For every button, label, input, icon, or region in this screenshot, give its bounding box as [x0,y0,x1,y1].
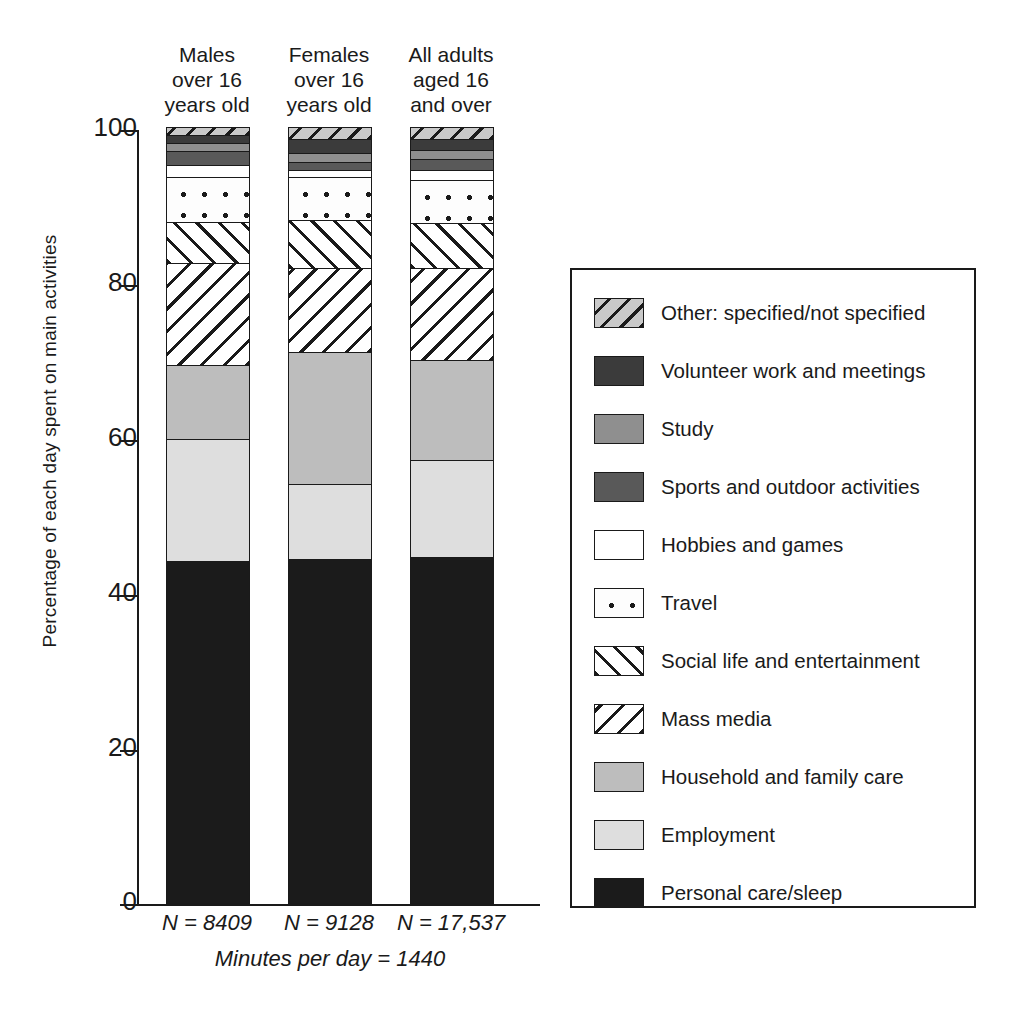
legend-item: Personal care/sleep [572,864,974,922]
segment-volunteer-work [167,136,249,145]
segment-other [411,128,493,140]
segment-social-life-entertainment [411,224,493,269]
segment-study [167,144,249,152]
legend-item-label: Hobbies and games [661,534,843,556]
back-hatch-gray-swatch [594,298,644,328]
legend-item-label: Mass media [661,708,772,730]
segment-personal-care-sleep [411,558,493,903]
segment-employment [289,485,371,560]
medium-dark-gray-swatch [594,472,644,502]
legend-item-label: Volunteer work and meetings [661,360,925,382]
legend-item: Sports and outdoor activities [572,458,974,516]
column-header-line: aged 16 [376,67,526,92]
legend-item: Mass media [572,690,974,748]
segment-personal-care-sleep [289,560,371,903]
segment-travel [167,178,249,222]
segment-travel [411,181,493,224]
column-header-line: All adults [376,42,526,67]
segment-social-life-entertainment [289,221,371,269]
x-axis-line [120,904,540,906]
y-axis-line [137,130,139,905]
segment-hobbies-games [167,166,249,178]
segment-sports-outdoor [411,160,493,171]
chart-legend: Other: specified/not specifiedVolunteer … [570,268,976,908]
very-light-gray-swatch [594,820,644,850]
segment-volunteer-work [411,140,493,152]
legend-item-label: Other: specified/not specified [661,302,925,324]
segment-sports-outdoor [289,163,371,171]
segment-mass-media [411,269,493,360]
white-swatch [594,530,644,560]
y-tick-label: 80 [73,269,137,295]
dark-gray-swatch [594,356,644,386]
segment-hobbies-games [289,171,371,179]
y-tick-label: 60 [73,424,137,450]
segment-study [289,154,371,163]
segment-sports-outdoor [167,152,249,166]
legend-item-label: Social life and entertainment [661,650,920,672]
legend-item: Household and family care [572,748,974,806]
legend-item: Travel [572,574,974,632]
segment-household-family-care [411,361,493,462]
legend-item-label: Study [661,418,713,440]
segment-other [167,128,249,136]
legend-item: Volunteer work and meetings [572,342,974,400]
light-gray-swatch [594,762,644,792]
bar-males [166,127,250,904]
segment-household-family-care [289,353,371,485]
y-tick-label: 100 [73,114,137,140]
legend-item: Study [572,400,974,458]
y-tick-label: 40 [73,579,137,605]
segment-mass-media [289,269,371,353]
forward-hatch-swatch [594,646,644,676]
legend-item: Other: specified/not specified [572,284,974,342]
legend-item: Social life and entertainment [572,632,974,690]
black-swatch [594,878,644,908]
legend-item: Employment [572,806,974,864]
mid-gray-swatch [594,414,644,444]
n-label-all-adults: N = 17,537 [366,910,536,936]
segment-volunteer-work [289,140,371,154]
column-header-line: and over [376,92,526,117]
bar-all-adults [410,127,494,904]
legend-item: Hobbies and games [572,516,974,574]
segment-employment [411,461,493,558]
segment-other [289,128,371,140]
minutes-per-day-footnote: Minutes per day = 1440 [120,946,540,972]
legend-item-label: Employment [661,824,775,846]
segment-travel [289,178,371,221]
dotted-swatch [594,588,644,618]
segment-household-family-care [167,366,249,440]
legend-item-label: Sports and outdoor activities [661,476,920,498]
segment-mass-media [167,264,249,366]
y-tick-label: 20 [73,734,137,760]
back-hatch-swatch [594,704,644,734]
y-axis-ticks: 100 80 60 40 20 0 [0,0,137,1012]
column-header-all-adults: All adults aged 16 and over [376,42,526,117]
bar-females [288,127,372,904]
segment-hobbies-games [411,171,493,181]
stacked-bar-chart-figure: Percentage of each day spent on main act… [0,0,1017,1012]
legend-item-label: Personal care/sleep [661,882,842,904]
legend-item-label: Household and family care [661,766,904,788]
segment-personal-care-sleep [167,562,249,903]
segment-study [411,151,493,160]
legend-item-label: Travel [661,592,717,614]
segment-social-life-entertainment [167,223,249,264]
segment-employment [167,440,249,562]
